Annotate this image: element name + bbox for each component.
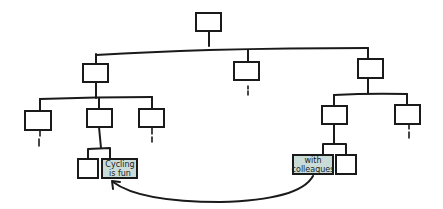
node-l2-right-a[interactable] bbox=[322, 106, 347, 124]
link-arrow bbox=[112, 176, 313, 202]
edge-l2-left-b-stem bbox=[99, 127, 101, 148]
arrow-curve bbox=[113, 176, 313, 202]
nodes bbox=[25, 13, 420, 178]
label-colleagues-line1: with bbox=[305, 156, 322, 165]
edge-level3-right-bar bbox=[323, 144, 346, 155]
edge-level3-left-bar bbox=[88, 148, 110, 159]
edge-level1-bar bbox=[96, 48, 368, 55]
label-cycling-line2: is fun bbox=[109, 169, 131, 178]
node-l2-right-b[interactable] bbox=[395, 105, 420, 124]
stub-l2-left-a bbox=[39, 130, 40, 146]
node-l1-right[interactable] bbox=[358, 59, 383, 78]
node-l2-left-b[interactable] bbox=[87, 109, 112, 127]
label-cycling-line1: Cycling bbox=[105, 160, 134, 169]
tree-diagram: Cycling is fun with colleagues bbox=[0, 0, 443, 209]
edge-level2-right-bar bbox=[334, 94, 407, 95]
node-l3-right-b[interactable] bbox=[336, 155, 356, 174]
connectors bbox=[39, 32, 409, 159]
node-l1-mid[interactable] bbox=[234, 62, 259, 80]
node-l3-left-a[interactable] bbox=[78, 159, 98, 178]
node-root[interactable] bbox=[196, 13, 221, 31]
node-l2-left-c[interactable] bbox=[139, 109, 164, 127]
node-l2-left-a[interactable] bbox=[25, 111, 51, 130]
label-colleagues-line2: colleagues bbox=[292, 165, 335, 174]
node-l1-left[interactable] bbox=[83, 64, 108, 82]
